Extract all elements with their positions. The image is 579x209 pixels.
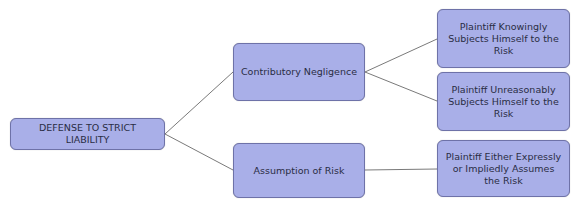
node-plaintiff-knowingly-subjects: Plaintiff Knowingly Subjects Himself to … bbox=[437, 9, 570, 68]
node-assumption-of-risk: Assumption of Risk bbox=[233, 143, 365, 198]
node-contributory-negligence: Contributory Negligence bbox=[233, 43, 365, 101]
root-node-defense-to-strict-liability: DEFENSE TO STRICT LIABILITY bbox=[10, 118, 165, 150]
node-plaintiff-unreasonably-subjects: Plaintiff Unreasonably Subjects Himself … bbox=[437, 72, 570, 131]
node-plaintiff-expressly-or-impliedly-assumes: Plaintiff Either Expressly or Impliedly … bbox=[437, 140, 570, 197]
